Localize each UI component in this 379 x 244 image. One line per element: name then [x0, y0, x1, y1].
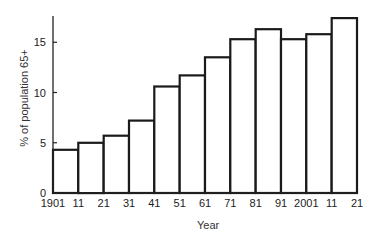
plot-area: 051015 190111213141516171819120011121	[0, 0, 379, 244]
y-axis-label: % of population 65+	[18, 49, 30, 147]
x-tick-label: 1901	[41, 197, 65, 209]
bar-1961	[205, 57, 230, 193]
x-tick-label: 11	[326, 197, 337, 209]
x-tick-label: 61	[199, 197, 211, 209]
bar-2001	[306, 34, 331, 193]
y-tick-label: 5	[40, 137, 46, 149]
y-tick-label: 15	[34, 36, 46, 48]
x-tick-label: 81	[250, 197, 262, 209]
x-tick-label: 11	[73, 197, 84, 209]
bar-1981	[256, 29, 281, 193]
x-tick-label: 21	[98, 197, 110, 209]
bars-group	[53, 18, 357, 193]
bar-1901	[53, 150, 78, 193]
bar-1951	[180, 75, 205, 193]
x-tick-label: 71	[224, 197, 236, 209]
x-tick-label: 51	[174, 197, 186, 209]
bar-1911	[78, 143, 103, 193]
bar-2011	[332, 18, 357, 193]
bar-1991	[281, 39, 306, 193]
bar-chart: 051015 190111213141516171819120011121 % …	[0, 0, 379, 244]
x-axis-label: Year	[197, 219, 219, 231]
x-tick-label: 41	[148, 197, 160, 209]
bar-1941	[154, 87, 179, 194]
x-tick-label: 21	[351, 197, 363, 209]
x-tick-label: 2001	[294, 197, 318, 209]
x-tick-label: 91	[275, 197, 287, 209]
bar-1921	[104, 136, 129, 193]
x-tick-label: 31	[123, 197, 135, 209]
y-axis-label-container: % of population 65+	[16, 28, 32, 168]
bar-1971	[230, 39, 255, 193]
x-ticks-group: 190111213141516171819120011121	[41, 197, 363, 209]
bar-1931	[129, 121, 154, 193]
y-tick-label: 10	[34, 87, 46, 99]
